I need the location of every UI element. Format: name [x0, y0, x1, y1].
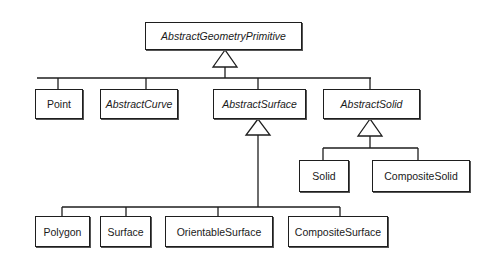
class-label: CompositeSolid [384, 170, 458, 182]
class-composite-solid: CompositeSolid [372, 160, 470, 192]
generalization-arrow-surface [246, 119, 270, 135]
generalization-arrow-solid [358, 119, 382, 136]
class-abstract-solid: AbstractSolid [323, 89, 420, 119]
class-label: AbstractSurface [222, 98, 297, 110]
class-point: Point [35, 89, 83, 119]
class-orientable-surface: OrientableSurface [165, 216, 273, 247]
class-label: AbstractSolid [341, 98, 403, 110]
class-abstract-geometry-primitive: AbstractGeometryPrimitive [145, 22, 302, 50]
class-label: Point [47, 98, 71, 110]
generalization-arrow-root [213, 50, 237, 67]
class-label: OrientableSurface [177, 226, 262, 238]
class-abstract-surface: AbstractSurface [213, 89, 306, 119]
class-label: AbstractCurve [106, 98, 173, 110]
class-label: Surface [107, 226, 143, 238]
class-polygon: Polygon [35, 216, 90, 247]
class-abstract-curve: AbstractCurve [100, 89, 178, 119]
class-label: Solid [312, 170, 335, 182]
class-solid: Solid [299, 160, 349, 192]
class-label: AbstractGeometryPrimitive [161, 30, 286, 42]
class-label: Polygon [44, 226, 82, 238]
class-label: CompositeSurface [295, 226, 381, 238]
class-composite-surface: CompositeSurface [288, 216, 388, 247]
class-surface: Surface [100, 216, 151, 247]
